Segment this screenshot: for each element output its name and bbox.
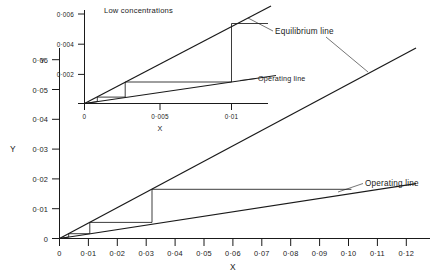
main-x-tick-label-9: 0·09 [312,249,328,258]
main-y-tick-label-4: 0·04 [32,115,48,124]
inset-x-ticks [85,104,232,111]
main-y-axis-title: Y [10,144,16,154]
main-x-tick-label-5: 0·05 [196,249,212,258]
main-x-tick-label-10: 0·10 [341,249,357,258]
inset-x-tick-label-2: 0·01 [225,113,239,120]
inset-x-tick-label-0: 0 [83,113,87,120]
inset-y-axis-title: Y [40,56,45,65]
main-y-ticks [52,60,60,239]
main-x-tick-label-4: 0·04 [167,249,183,258]
main-y-tick-label-1: 0·01 [32,205,48,214]
inset-construction-steps [85,24,269,104]
main-operating-line [60,184,417,239]
equilibrium-line-label: Equilibrium line [275,27,334,36]
chart-svg: 0 0·01 0·02 0·03 0·04 0·05 0·06 Y [0,0,433,274]
inset-chart: 0·002 0·004 0·006 Y 0 0·005 0·01 X Low c… [40,6,306,133]
inset-equilibrium-line [85,6,272,104]
main-x-tick-label-7: 0·07 [254,249,270,258]
inset-title: Low concentrations [104,6,173,15]
main-y-tick-label-0: 0 [44,235,48,244]
inset-y-tick-label-2: 0·004 [57,41,75,48]
inset-operating-line-leader [240,79,256,81]
main-x-tick-label-0: 0 [57,249,61,258]
main-x-tick-label-2: 0·02 [110,249,126,258]
main-x-tick-label-11: 0·11 [370,249,385,258]
equilibrium-line-annotation: Equilibrium line [248,18,368,72]
inset-x-axis-title: X [158,124,163,133]
equilibrium-line-leader-inset [248,18,273,31]
main-operating-line-leader [338,184,363,193]
main-x-tick-label-12: 0·12 [399,249,415,258]
main-operating-line-label: Operating line [365,179,419,188]
main-x-tick-label-1: 0·01 [81,249,97,258]
equilibrium-line-leader-main [326,37,368,72]
inset-operating-line-label: Operating line [258,74,306,83]
main-y-tick-label-3: 0·03 [32,145,48,154]
main-y-tick-label-5: 0·05 [32,86,48,95]
main-x-tick-label-8: 0·08 [283,249,299,258]
inset-y-tick-label-3: 0·006 [57,11,75,18]
inset-y-tick-label-1: 0·002 [57,71,75,78]
main-y-tick-label-2: 0·02 [32,175,48,184]
main-construction-steps [60,189,352,238]
main-x-tick-label-3: 0·03 [138,249,154,258]
chart-figure: 0 0·01 0·02 0·03 0·04 0·05 0·06 Y [0,0,433,274]
main-x-ticks [60,239,407,247]
main-x-axis-title: X [230,262,236,272]
main-x-tick-label-6: 0·06 [225,249,241,258]
inset-x-tick-label-1: 0·005 [151,113,169,120]
main-equilibrium-line [60,48,417,239]
inset-y-ticks [78,14,85,104]
